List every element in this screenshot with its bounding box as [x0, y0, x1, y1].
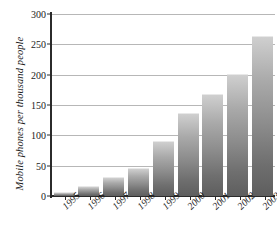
bar-slot — [201, 14, 225, 196]
y-axis-tick-mark — [47, 135, 52, 136]
bar-slot — [225, 14, 249, 196]
x-axis-tick-labels: 199519961997199819992000200120022003 — [52, 200, 275, 240]
y-axis-tick-label: 100 — [18, 130, 46, 141]
y-axis-tick-label: 250 — [18, 39, 46, 50]
y-axis-tick-label: 0 — [18, 191, 46, 202]
bar — [202, 94, 223, 196]
bar-slot — [250, 14, 274, 196]
bar-slot — [126, 14, 150, 196]
plot-area — [52, 14, 275, 196]
y-axis-tick-mark — [47, 14, 52, 15]
bar — [153, 141, 174, 196]
y-axis-tick-mark — [47, 105, 52, 106]
bar-chart: Mobile phones per thousand people 050100… — [0, 0, 277, 240]
y-axis-tick-label: 50 — [18, 160, 46, 171]
bar-slot — [102, 14, 126, 196]
bar-slot — [52, 14, 76, 196]
y-axis-tick-label: 150 — [18, 100, 46, 111]
y-axis-tick-mark — [47, 196, 52, 197]
y-axis-tick-mark — [47, 74, 52, 75]
y-axis-tick-labels: 050100150200250300 — [18, 0, 46, 240]
bar — [227, 74, 248, 196]
bar — [178, 113, 199, 197]
bar-slot — [151, 14, 175, 196]
y-axis-tick-mark — [47, 165, 52, 166]
bar-slot — [176, 14, 200, 196]
bar — [252, 36, 273, 196]
y-axis-tick-label: 200 — [18, 69, 46, 80]
y-axis-tick-mark — [47, 44, 52, 45]
bars-group — [52, 14, 275, 196]
y-axis-tick-label: 300 — [18, 9, 46, 20]
bar-slot — [77, 14, 101, 196]
